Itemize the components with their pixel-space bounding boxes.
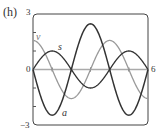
plot-area	[0, 0, 165, 135]
